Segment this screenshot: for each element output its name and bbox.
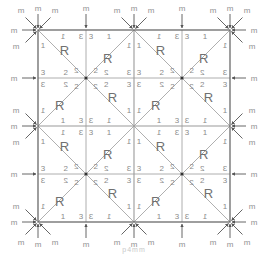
cell-number: 3 (126, 68, 131, 77)
mirror-label: m (249, 138, 256, 147)
mirror-arrow-icon (122, 224, 133, 235)
mirror-label: m (251, 218, 258, 227)
cell-number: 1 (223, 106, 228, 115)
mirror-label: m (13, 106, 20, 115)
cell-number: 1 (202, 116, 207, 125)
mirror-arrow-icon (136, 18, 147, 29)
mirror-arrow-icon (40, 224, 51, 235)
motif-r: R (199, 51, 208, 66)
cell-number: 1 (223, 202, 228, 211)
cell-number: 2 (189, 82, 194, 91)
mirror-label: m (13, 138, 20, 147)
cell-number: 2 (93, 162, 98, 171)
cell-number: 1 (202, 212, 207, 221)
figure-caption: p4mm (0, 246, 268, 253)
cell-number: 1 (41, 137, 46, 146)
cell-number: 3 (185, 128, 190, 137)
cell-number: 3 (79, 212, 84, 221)
motif-r: R (199, 147, 208, 162)
cell-number: 1 (157, 116, 162, 125)
cell-number: 1 (136, 106, 141, 115)
rotation-center-icon (180, 76, 183, 79)
motif-r: R (204, 186, 213, 201)
mirror-label: m (11, 74, 18, 83)
mirror-arrow-icon (218, 18, 229, 29)
cell-number: 2 (200, 80, 205, 89)
mirror-arrow-icon (232, 224, 243, 235)
cell-number: 3 (78, 128, 83, 137)
cell-number: 2 (93, 178, 98, 187)
cell-number: 3 (79, 116, 84, 125)
motif-r: R (103, 51, 112, 66)
mirror-arrow-icon (232, 18, 243, 29)
mirror-label: m (11, 170, 18, 179)
mirror-arrow-icon (26, 18, 37, 29)
mirror-arrow-icon (232, 210, 243, 221)
mirror-label: m (251, 170, 258, 179)
cell-number: 2 (103, 164, 108, 173)
mirror-label: m (251, 74, 258, 83)
cell-number: 2 (93, 82, 98, 91)
mirror-label: m (114, 6, 121, 15)
mirror-label: m (249, 202, 256, 211)
cell-number: 2 (74, 162, 79, 171)
cell-number: 2 (63, 176, 68, 185)
mirror-arrow-icon (218, 224, 229, 235)
mirror-label: m (11, 218, 18, 227)
cell-number: 1 (137, 41, 142, 50)
mirror-label: m (18, 6, 25, 15)
cell-number: 2 (170, 178, 175, 187)
mirror-arrow-icon (26, 210, 37, 221)
mirror-label: m (131, 4, 138, 13)
cell-number: 1 (40, 202, 45, 211)
cell-number: 2 (200, 176, 205, 185)
motif-r: R (156, 139, 165, 154)
mirror-arrow-icon (232, 32, 243, 43)
motif-r: R (60, 139, 69, 154)
motif-r: R (108, 186, 117, 201)
mirror-label: m (52, 6, 59, 15)
cell-number: 3 (137, 68, 142, 77)
motif-r: R (55, 194, 64, 209)
cell-number: 1 (127, 106, 132, 115)
cell-number: 3 (89, 128, 94, 137)
mirror-arrow-icon (122, 18, 133, 29)
mirror-label: m (83, 4, 90, 13)
cell-number: 2 (74, 178, 79, 187)
cell-number: 1 (137, 137, 142, 146)
cell-number: 2 (170, 82, 175, 91)
cell-number: 3 (127, 176, 132, 185)
cell-number: 3 (175, 116, 180, 125)
cell-number: 1 (106, 212, 111, 221)
cell-number: 1 (203, 128, 208, 137)
cell-number: 3 (174, 128, 179, 137)
motif-r: R (151, 98, 160, 113)
cell-number: 3 (126, 164, 131, 173)
cell-number: 1 (40, 106, 45, 115)
cell-number: 1 (41, 41, 46, 50)
mirror-label: m (251, 122, 258, 131)
mirror-label: m (148, 6, 155, 15)
cell-number: 3 (222, 164, 227, 173)
cell-number: 3 (89, 32, 94, 41)
cell-number: 2 (189, 162, 194, 171)
cell-number: 1 (222, 41, 227, 50)
cell-number: 3 (136, 176, 141, 185)
mirror-arrow-icon (26, 114, 37, 125)
cell-number: 1 (127, 202, 132, 211)
cell-number: 1 (126, 137, 131, 146)
cell-number: 3 (223, 176, 228, 185)
p4mm-symmetry-diagram: 11R2233311R223322R113223R11311R2233311R2… (0, 0, 268, 257)
cell-number: 2 (103, 68, 108, 77)
motif-r: R (204, 90, 213, 105)
cell-number: 1 (107, 128, 112, 137)
cell-number: 2 (199, 164, 204, 173)
cell-number: 3 (41, 164, 46, 173)
mirror-label: m (13, 42, 20, 51)
cell-number: 1 (60, 128, 65, 137)
cell-number: 2 (74, 82, 79, 91)
cell-number: 2 (170, 162, 175, 171)
cell-number: 3 (137, 164, 142, 173)
motif-r: R (55, 98, 64, 113)
cell-number: 2 (93, 66, 98, 75)
